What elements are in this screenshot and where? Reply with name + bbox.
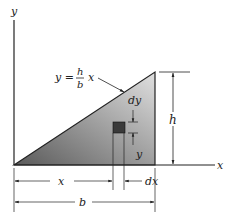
x-axis-label: x — [217, 159, 224, 172]
h-label: h — [169, 113, 177, 127]
equation-lhs: y = — [54, 71, 74, 84]
equation-var: x — [88, 71, 95, 84]
dy-label: dy — [128, 94, 142, 107]
equation-denominator: b — [77, 79, 83, 90]
y-dim-label: y — [135, 148, 143, 161]
y-axis-label: y — [10, 5, 18, 18]
b-label: b — [79, 196, 86, 209]
triangle-area — [14, 72, 155, 165]
x-dim-label: x — [58, 175, 65, 188]
area-element — [113, 122, 125, 133]
equation-numerator: h — [77, 66, 83, 77]
diagram-canvas: y x y = h b x dy y h x dx b — [0, 0, 228, 222]
dx-label: dx — [145, 175, 159, 188]
triangle-diagram: y x y = h b x dy y h x dx b — [0, 0, 228, 222]
equation-leader — [98, 78, 124, 92]
